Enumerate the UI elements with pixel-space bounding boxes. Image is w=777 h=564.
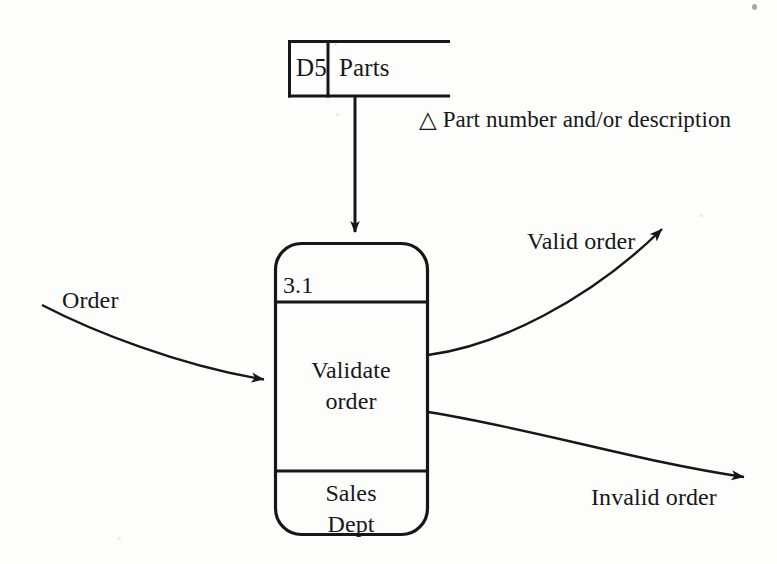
scan-speck [336,113,339,116]
flow-arrow-order [42,305,264,380]
flow-arrow-invalid-order [428,412,744,477]
data-store-outflow-label: △ Part number and/or description [419,107,731,134]
process-actor-label: Sales Dept [274,478,428,539]
data-store-id-label: D5 [296,53,327,82]
scan-speck [334,43,337,46]
flow-label-invalid-order: Invalid order [591,484,717,512]
scan-speck [118,537,121,540]
flow-label-valid-order: Valid order [527,228,635,256]
scan-speck [752,4,757,10]
process-id-label: 3.1 [283,272,313,300]
flow-label-order: Order [62,287,118,315]
data-store-name-label: Parts [339,53,390,82]
scan-speck [700,214,703,217]
diagram-canvas: D5 Parts △ Part number and/or descriptio… [0,0,777,564]
process-name-label: Validate order [274,355,428,416]
